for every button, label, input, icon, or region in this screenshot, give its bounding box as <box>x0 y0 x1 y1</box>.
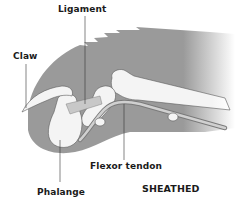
claw-label: Claw <box>13 51 37 61</box>
tendon-sheath-ring <box>95 118 105 126</box>
sheathed-state-label: SHEATHED <box>142 183 200 194</box>
claw-anatomy-illustration <box>0 0 235 205</box>
flexor-tendon-label: Flexor tendon <box>90 161 162 171</box>
ligament-label: Ligament <box>58 4 106 14</box>
phalange-label: Phalange <box>37 187 85 197</box>
tendon-sheath-ring <box>168 113 178 121</box>
